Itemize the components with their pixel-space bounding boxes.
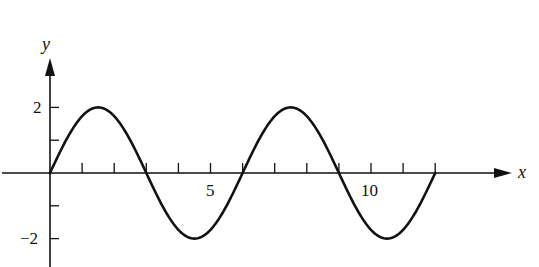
sine-plot: x y 5 10 2 −2 xyxy=(0,0,539,267)
x-ticks xyxy=(82,163,435,173)
y-tick-label-2: 2 xyxy=(33,98,42,117)
x-tick-label-10: 10 xyxy=(361,181,378,200)
y-tick-label-neg2: −2 xyxy=(20,229,38,248)
y-axis-label: y xyxy=(40,34,50,54)
x-tick-label-5: 5 xyxy=(206,181,215,200)
x-axis-label: x xyxy=(517,162,526,182)
y-axis-arrow-icon xyxy=(45,58,55,76)
x-axis-arrow-icon xyxy=(494,168,512,178)
